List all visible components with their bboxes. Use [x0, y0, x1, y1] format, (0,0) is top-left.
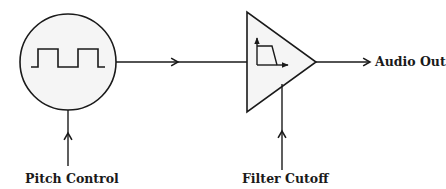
pitch-control-label: Pitch Control — [25, 173, 119, 186]
oscillator-node — [20, 14, 116, 110]
diagram-canvas — [0, 0, 446, 189]
filter-cutoff-label: Filter Cutoff — [242, 173, 328, 186]
oscillator-circle — [20, 14, 116, 110]
audio-out-label: Audio Out — [375, 56, 446, 69]
